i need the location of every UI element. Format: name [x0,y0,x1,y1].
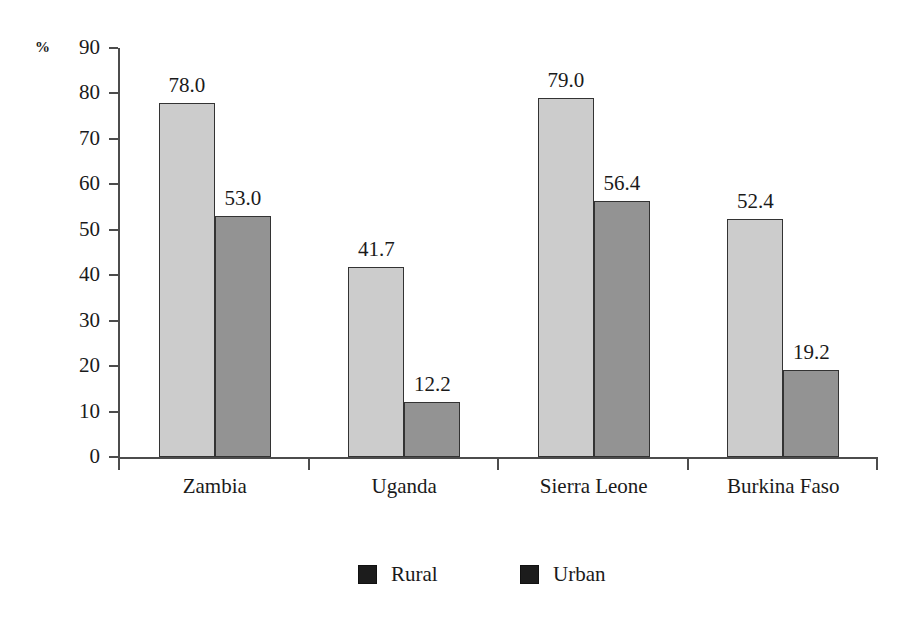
y-axis-tick [109,365,118,367]
legend-entry-rural: Rural [358,560,438,588]
bar-rural-sierra-leone [538,98,594,457]
bar-urban-uganda [404,402,460,457]
bar-rural-burkina-faso [727,219,783,457]
y-axis-tick-label: 50 [44,219,100,240]
bar-chart: % 9080706050403020100 78.053.041.712.279… [0,0,919,629]
bar-urban-sierra-leone [594,201,650,457]
y-axis-tick [109,274,118,276]
y-axis-tick-label: 60 [44,173,100,194]
x-axis-tick [497,459,499,470]
legend-entry-urban: Urban [520,560,605,588]
bar-value-label: 56.4 [580,173,664,194]
y-axis-tick [109,47,118,49]
y-axis-tick-label: 0 [44,446,100,467]
bar-value-label: 12.2 [390,374,474,395]
x-axis-category-label: Sierra Leone [499,474,689,498]
bar-value-label: 52.4 [713,191,797,212]
y-axis-line [118,48,120,459]
y-axis-tick-label: 20 [44,355,100,376]
x-axis-tick [308,459,310,470]
x-axis-category-label: Uganda [310,474,500,498]
legend-label: Urban [553,564,605,585]
y-axis-tick [109,183,118,185]
bar-urban-burkina-faso [783,370,839,457]
y-axis-tick [109,411,118,413]
bar-value-label: 53.0 [201,188,285,209]
x-axis-tick [118,459,120,470]
x-axis-tick [687,459,689,470]
bar-rural-uganda [348,267,404,457]
legend-label: Rural [391,564,438,585]
y-axis-tick-label: 10 [44,401,100,422]
bar-value-label: 41.7 [334,239,418,260]
y-axis-tick-label: 40 [44,264,100,285]
bar-value-label: 78.0 [145,75,229,96]
bar-rural-zambia [159,103,215,457]
y-axis-tick-label: 70 [44,128,100,149]
y-axis-tick-label: 90 [44,37,100,58]
bar-value-label: 19.2 [769,342,853,363]
bar-value-label: 79.0 [524,70,608,91]
y-axis-tick [109,229,118,231]
x-axis-category-label: Zambia [120,474,310,498]
y-axis-tick [109,92,118,94]
x-axis-category-label: Burkina Faso [689,474,879,498]
x-axis-end-tick [876,459,878,470]
y-axis-tick [109,456,118,458]
y-axis-tick [109,138,118,140]
legend: RuralUrban [0,560,919,592]
y-axis-tick-label: 80 [44,82,100,103]
legend-swatch-icon [520,565,539,584]
y-axis-tick-label: 30 [44,310,100,331]
bar-urban-zambia [215,216,271,457]
legend-swatch-icon [358,565,377,584]
y-axis-tick [109,320,118,322]
